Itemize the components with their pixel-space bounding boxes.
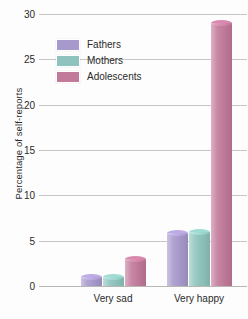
legend-label: Adolescents <box>87 71 141 82</box>
x-axis-tick-label: Very sad <box>94 293 133 304</box>
legend-item: Mothers <box>56 54 141 67</box>
y-axis-tick-label: 5 <box>29 235 35 246</box>
y-axis-tick-label: 30 <box>24 9 35 20</box>
legend-label: Fathers <box>87 39 121 50</box>
bar <box>81 277 102 286</box>
bar <box>167 233 188 286</box>
bar-group <box>167 14 232 286</box>
y-axis-tick-label: 15 <box>24 145 35 156</box>
y-axis-tick-label: 0 <box>29 281 35 292</box>
x-axis-tick-label: Very happy <box>174 293 224 304</box>
legend-swatch <box>56 55 80 67</box>
y-axis-tick-label: 20 <box>24 99 35 110</box>
legend-swatch <box>56 39 80 51</box>
bar <box>125 259 146 286</box>
x-axis-line <box>39 286 247 287</box>
legend-label: Mothers <box>87 55 123 66</box>
legend-item: Adolescents <box>56 70 141 83</box>
bar-chart: Percentage of self-reports 051015202530 … <box>0 0 248 319</box>
legend-item: Fathers <box>56 38 141 51</box>
y-axis-tick-label: 10 <box>24 190 35 201</box>
legend: FathersMothersAdolescents <box>56 38 141 83</box>
legend-swatch <box>56 71 80 83</box>
y-axis-tick-label: 25 <box>24 54 35 65</box>
y-axis-title: Percentage of self-reports <box>13 64 24 224</box>
bar <box>211 23 232 286</box>
bar <box>103 277 124 286</box>
bar <box>189 232 210 286</box>
